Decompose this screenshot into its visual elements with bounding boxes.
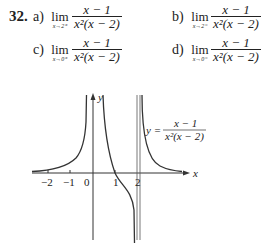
equation-denominator: x²(x − 2): [164, 130, 204, 143]
tick-label-0: 0: [84, 176, 90, 188]
x-axis-arrow-icon: [183, 171, 190, 176]
tick-label-minus1: −1: [63, 176, 75, 188]
function-graph: −2 −1 0 1 2 x y y = x − 1 x²(x − 2): [0, 0, 278, 245]
tick-label-2: 2: [135, 176, 141, 188]
curve-branch-left: [32, 95, 87, 172]
y-axis-arrow-icon: [91, 93, 96, 100]
tick-label-minus2: −2: [41, 176, 53, 188]
curve-branch-middle: [103, 95, 135, 243]
y-axis-label: y: [97, 91, 103, 103]
tick-label-1: 1: [113, 176, 119, 188]
equation-lhs: y =: [145, 124, 161, 136]
equation-numerator: x − 1: [173, 117, 197, 129]
x-axis-label: x: [192, 167, 198, 179]
